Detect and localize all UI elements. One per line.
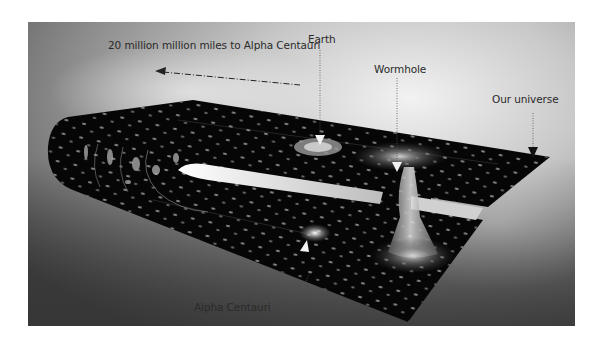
wormhole-illustration: 20 million million miles to Alpha Centau… [28, 22, 575, 326]
our-universe-label: Our universe [492, 93, 559, 105]
wormhole-lower-mouth [371, 236, 455, 272]
illustration-canvas [28, 22, 575, 326]
alpha-centauri-star [299, 224, 331, 242]
alpha-centauri-label: Alpha Centauri [194, 301, 271, 313]
earth-label: Earth [308, 33, 336, 45]
wormhole-label: Wormhole [374, 63, 426, 75]
distance-label: 20 million million miles to Alpha Centau… [108, 39, 320, 51]
